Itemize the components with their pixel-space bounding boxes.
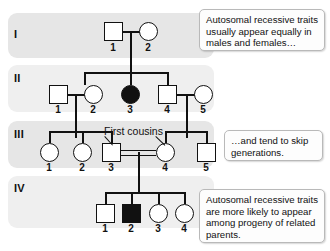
individual-III-5 xyxy=(197,143,216,162)
sibship-bar-gen-IV xyxy=(105,192,185,194)
individual-II-4 xyxy=(158,85,177,104)
sibling-drop-II-2 xyxy=(84,72,86,85)
individual-IV-3 xyxy=(149,204,168,223)
individual-number-IV-3: 3 xyxy=(148,223,168,234)
descent-line-III-3-III-4 xyxy=(138,152,140,192)
individual-II-5 xyxy=(194,85,213,104)
sibling-drop-IV-2 xyxy=(131,192,133,204)
individual-number-I-1: 1 xyxy=(103,42,123,53)
individual-number-I-2: 2 xyxy=(138,42,158,53)
sibling-drop-IV-3 xyxy=(158,192,160,204)
individual-II-3 xyxy=(121,85,140,104)
sibship-bar-gen-III-left xyxy=(49,131,112,133)
sibling-drop-II-4 xyxy=(167,72,169,85)
consanguinity-label: First cousins xyxy=(104,125,163,137)
individual-number-II-3: 3 xyxy=(120,104,140,115)
generation-label-IV: IV xyxy=(14,182,25,194)
individual-IV-2 xyxy=(122,204,141,223)
sibling-drop-IV-1 xyxy=(105,192,107,204)
sibship-bar-gen-III-right xyxy=(165,131,207,133)
sibling-drop-III-2 xyxy=(82,131,84,143)
individual-number-IV-2: 2 xyxy=(121,223,141,234)
individual-number-III-4: 4 xyxy=(155,162,175,173)
generation-label-I: I xyxy=(14,28,17,40)
individual-number-II-5: 5 xyxy=(193,104,213,115)
generation-label-III: III xyxy=(14,128,24,140)
individual-number-II-1: 1 xyxy=(48,104,68,115)
callout-box-1: Autosomal recessive traits usually appea… xyxy=(199,9,325,51)
individual-number-III-2: 2 xyxy=(72,162,92,173)
individual-III-4 xyxy=(156,143,175,162)
individual-number-III-5: 5 xyxy=(196,162,216,173)
individual-number-III-3: 3 xyxy=(101,162,121,173)
individual-III-1 xyxy=(40,143,59,162)
sibling-drop-IV-4 xyxy=(184,192,186,204)
sibling-drop-III-1 xyxy=(49,131,51,143)
callout-box-2: …and tend to skip generations. xyxy=(224,130,323,161)
callout-box-3: Autosomal recessive traits are more like… xyxy=(199,189,325,243)
sibling-drop-III-5 xyxy=(206,131,208,143)
sibling-drop-II-3 xyxy=(130,72,132,85)
individual-I-1 xyxy=(104,22,123,41)
individual-number-III-1: 1 xyxy=(39,162,59,173)
pedigree-figure: I II III IV 1 2 1 2 3 4 5 1 2 3 4 xyxy=(0,0,330,251)
individual-III-2 xyxy=(73,143,92,162)
individual-II-1 xyxy=(49,85,68,104)
individual-number-II-4: 4 xyxy=(157,104,177,115)
individual-IV-1 xyxy=(96,204,115,223)
individual-I-2 xyxy=(139,22,158,41)
individual-II-2 xyxy=(84,85,103,104)
generation-label-II: II xyxy=(14,72,21,84)
sibship-bar-gen-II xyxy=(84,72,168,74)
sibling-drop-III-4 xyxy=(165,131,167,143)
individual-number-IV-1: 1 xyxy=(95,223,115,234)
individual-IV-4 xyxy=(175,204,194,223)
individual-number-II-2: 2 xyxy=(83,104,103,115)
individual-number-IV-4: 4 xyxy=(174,223,194,234)
